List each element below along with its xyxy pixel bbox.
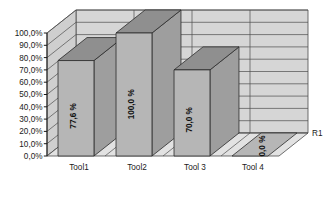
y-axis-tick-label: 80,0% xyxy=(19,54,42,63)
bar-chart-3d: 0,0%10,0%20,0%30,0%40,0%50,0%60,0%70,0%8… xyxy=(0,0,325,199)
y-axis-tick-label: 0,0% xyxy=(24,152,43,161)
bar-value-label: 100,0 % xyxy=(127,89,136,120)
y-axis-tick-label: 60,0% xyxy=(19,78,42,87)
y-axis-tick-label: 90,0% xyxy=(19,41,42,50)
bar-value-label: 77,6 % xyxy=(69,102,78,128)
category-label: Tool 4 xyxy=(242,163,264,172)
category-label: Tool2 xyxy=(127,163,147,172)
chart-container: 0,0%10,0%20,0%30,0%40,0%50,0%60,0%70,0%8… xyxy=(0,0,325,199)
series-legend: R1 xyxy=(312,129,323,138)
y-axis-tick-label: 30,0% xyxy=(19,115,42,124)
bar xyxy=(174,47,239,156)
bar xyxy=(58,38,123,156)
bar-value-label: 70,0 % xyxy=(185,106,194,132)
series-legend-label: R1 xyxy=(312,129,323,138)
y-axis-tick-label: 10,0% xyxy=(19,140,42,149)
y-axis-tick-label: 70,0% xyxy=(19,66,42,75)
bar-value-label: 0,0 % xyxy=(258,135,267,157)
y-axis-tick-label: 40,0% xyxy=(19,103,42,112)
category-label: Tool 3 xyxy=(184,163,206,172)
y-axis-tick-label: 100,0% xyxy=(15,29,43,38)
y-axis-tick-label: 20,0% xyxy=(19,127,42,136)
bar xyxy=(116,10,181,156)
category-label: Tool1 xyxy=(69,163,89,172)
y-axis-tick-label: 50,0% xyxy=(19,90,42,99)
y-axis-tick-labels: 0,0%10,0%20,0%30,0%40,0%50,0%60,0%70,0%8… xyxy=(15,29,43,161)
